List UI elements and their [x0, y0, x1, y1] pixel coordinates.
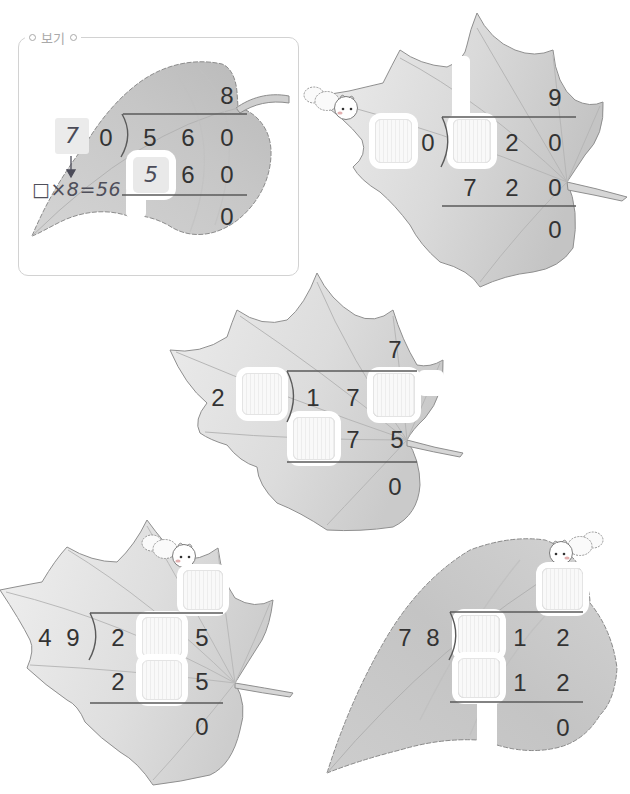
example-filled-box — [55, 118, 89, 154]
answer-blank-dividend-ones[interactable] — [373, 373, 415, 417]
answer-blank-product-hundreds[interactable] — [293, 417, 335, 460]
answer-blank-dividend-tens[interactable] — [142, 617, 182, 657]
example-label-text: 보기 — [41, 28, 65, 47]
answer-blank-product-tens[interactable] — [142, 660, 182, 700]
circle-bullet-icon — [70, 34, 77, 41]
answer-blank-divisor-ones[interactable] — [242, 373, 282, 415]
answer-blank-quotient[interactable] — [542, 568, 583, 610]
answer-box-layer — [0, 0, 630, 794]
answer-blank-dividend-hundreds[interactable] — [453, 119, 491, 163]
example-label: 보기 — [25, 29, 81, 45]
answer-blank-quotient[interactable] — [183, 570, 223, 610]
example-filled-box — [133, 157, 169, 193]
answer-blank-divisor-tens[interactable] — [375, 119, 412, 163]
answer-blank-product-hundreds[interactable] — [458, 658, 500, 698]
answer-blank-dividend-hundreds[interactable] — [458, 615, 500, 655]
circle-bullet-icon — [29, 34, 36, 41]
